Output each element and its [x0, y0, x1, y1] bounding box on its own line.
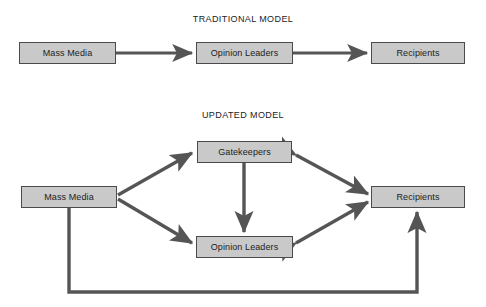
arrow-upd-gatekeepers-recipients [296, 155, 368, 194]
node-updated-gatekeepers: Gatekeepers [197, 141, 292, 163]
arrow-upd-media-to-leaders [118, 199, 192, 243]
node-traditional-opinion-leaders: Opinion Leaders [196, 42, 293, 64]
node-updated-opinion-leaders: Opinion Leaders [196, 236, 293, 258]
node-traditional-mass-media: Mass Media [19, 42, 116, 64]
node-updated-mass-media: Mass Media [21, 186, 117, 208]
node-updated-recipients: Recipients [371, 186, 465, 208]
traditional-model-title: TRADITIONAL MODEL [0, 14, 486, 24]
node-traditional-recipients: Recipients [371, 42, 465, 64]
arrow-upd-leaders-recipients [296, 202, 368, 243]
diagram-canvas: TRADITIONAL MODEL Mass Media Opinion Lea… [0, 0, 486, 307]
arrow-upd-media-to-gatekeepers [118, 153, 192, 195]
updated-model-title: UPDATED MODEL [0, 110, 486, 120]
